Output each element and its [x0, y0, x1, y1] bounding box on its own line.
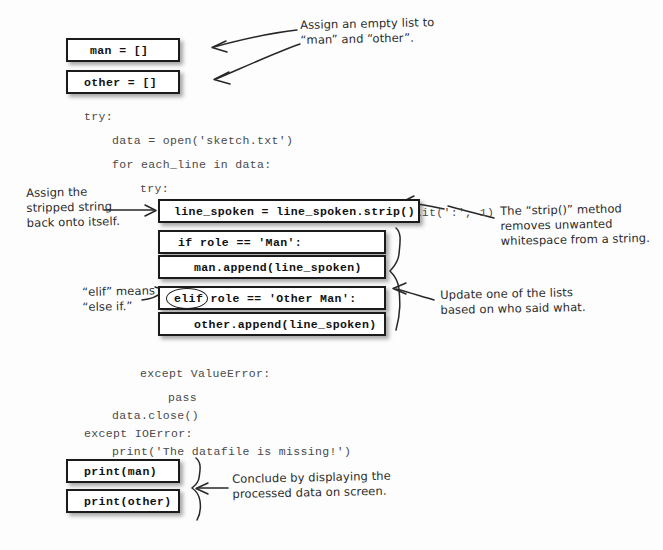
code-box-text: other.append(line_spoken): [194, 318, 377, 331]
arrow-to-other-assign: [214, 44, 300, 84]
code-box-other-append: other.append(line_spoken): [158, 312, 386, 336]
code-box-print-man: print(man): [66, 459, 180, 483]
code-box-elif-other-man: elif role == 'Other Man':: [158, 286, 386, 310]
code-box-text: man.append(line_spoken): [194, 261, 362, 274]
annotation-conclude-display: Conclude by displaying the processed dat…: [232, 469, 391, 502]
code-line: data.close(): [112, 409, 199, 423]
annotation-stripped-string: Assign the stripped string back onto its…: [26, 184, 120, 231]
code-box-print-other: print(other): [66, 489, 180, 513]
code-line: except IOError:: [84, 427, 193, 441]
code-box-text: other = []: [84, 76, 157, 89]
code-line: data = open('sketch.txt'): [112, 134, 293, 148]
code-box-man-assign: man = []: [66, 38, 180, 62]
code-box-if-man: if role == 'Man':: [158, 230, 386, 254]
annotation-assign-empty-list: Assign an empty list to “man” and “other…: [300, 15, 435, 48]
brace-print-block: [192, 458, 201, 520]
code-box-text: line_spoken = line_spoken.strip(): [174, 205, 415, 218]
arrow-to-man-assign: [212, 30, 297, 52]
arrow-to-print-block: [196, 483, 228, 494]
code-line: print('The datafile is missing!'): [112, 445, 351, 459]
code-line: except ValueError:: [140, 367, 271, 381]
code-box-strip-call: line_spoken = line_spoken.strip(): [158, 199, 420, 223]
code-box-text: man = []: [90, 44, 148, 57]
code-line: pass: [168, 391, 197, 405]
annotation-elif-means: “elif” means “else if.”: [82, 283, 156, 315]
annotated-code-page: try: data = open('sketch.txt') for each_…: [0, 0, 663, 550]
code-line: try:: [84, 110, 113, 124]
code-line: try:: [140, 182, 169, 196]
code-box-man-append: man.append(line_spoken): [158, 255, 386, 279]
brace-if-elif-block: [390, 228, 400, 330]
code-box-text: print(man): [84, 465, 157, 478]
arrow-to-elif-block: [393, 283, 434, 300]
code-box-text: print(other): [84, 495, 172, 508]
code-box-other-assign: other = []: [66, 70, 180, 94]
annotation-strip-method: The “strip()” method removes unwanted wh…: [500, 201, 650, 249]
code-box-text: elif role == 'Other Man':: [174, 292, 357, 305]
code-box-text: if role == 'Man':: [178, 236, 302, 249]
code-line: for each_line in data:: [112, 158, 272, 172]
annotation-update-lists: Update one of the lists based on who sai…: [440, 285, 586, 318]
